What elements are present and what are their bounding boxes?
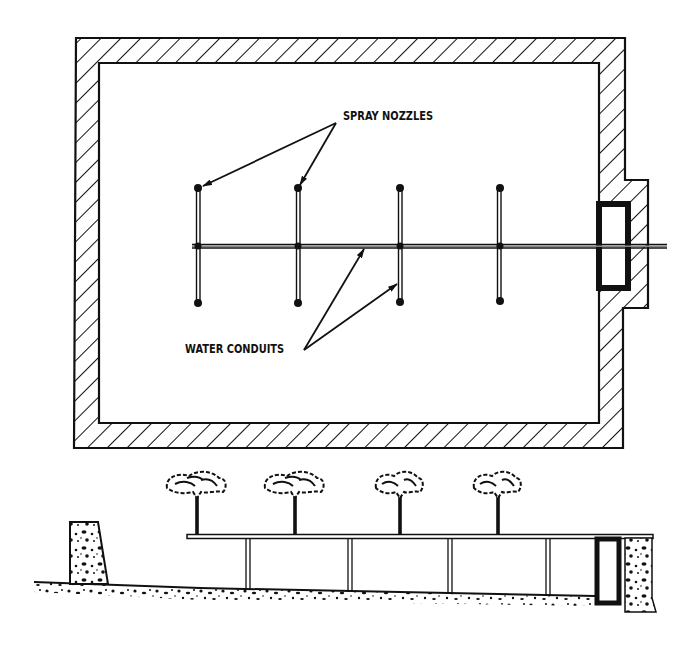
spray-plumes xyxy=(167,472,521,535)
nozzle-icon xyxy=(496,297,504,305)
plan-view xyxy=(74,38,667,448)
nozzle-icon xyxy=(194,184,202,192)
spray-plume-icon xyxy=(474,472,521,535)
spray-plume-icon xyxy=(265,472,324,535)
arrow-icon xyxy=(203,123,336,186)
spray-plume-icon xyxy=(167,472,226,535)
support-posts xyxy=(246,539,550,595)
arrow-icon xyxy=(304,284,397,350)
tank-wall xyxy=(74,38,648,448)
main-conduit xyxy=(192,245,667,249)
left-wall xyxy=(70,522,108,584)
nozzle-icon xyxy=(396,298,404,306)
water-conduits-label: WATER CONDUITS xyxy=(185,342,284,356)
section-valve-box xyxy=(597,539,619,603)
section-view xyxy=(34,472,656,612)
spray-plume-icon xyxy=(376,472,423,535)
nozzle-icon xyxy=(396,184,404,192)
spray-nozzles-label: SPRAY NOZZLES xyxy=(343,109,433,123)
arrow-icon xyxy=(304,249,364,350)
section-pipe xyxy=(187,535,653,539)
nozzle-icon xyxy=(194,299,202,307)
diagram-canvas: SPRAY NOZZLES WATER CONDUITS xyxy=(0,0,695,648)
right-wall xyxy=(625,538,656,612)
nozzle-icon xyxy=(496,184,504,192)
nozzle-icon xyxy=(294,299,302,307)
